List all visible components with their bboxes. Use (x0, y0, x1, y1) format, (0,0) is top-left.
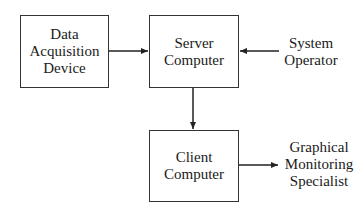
server-computer-box: Server Computer (149, 15, 239, 88)
actor-line: System (281, 35, 341, 52)
client-computer-box: Client Computer (149, 130, 239, 202)
node-line: Computer (164, 166, 224, 183)
node-line: Client (176, 149, 213, 166)
node-line: Device (43, 60, 85, 77)
node-line: Server (174, 35, 213, 52)
actor-line: Specialist (284, 173, 354, 190)
node-line: Data (50, 26, 78, 43)
actor-line: Graphical (284, 139, 354, 156)
system-operator-label: System Operator (281, 35, 341, 69)
actor-line: Operator (281, 52, 341, 69)
graphical-monitoring-specialist-label: Graphical Monitoring Specialist (284, 139, 354, 190)
data-acquisition-device-box: Data Acquisition Device (20, 15, 109, 88)
actor-line: Monitoring (284, 156, 354, 173)
node-line: Acquisition (30, 43, 100, 60)
node-line: Computer (164, 52, 224, 69)
